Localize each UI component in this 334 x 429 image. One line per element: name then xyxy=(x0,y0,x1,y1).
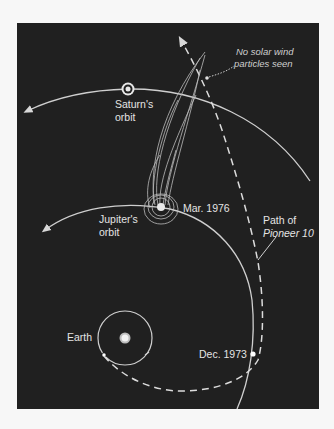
jupiter-dec-1973-dot xyxy=(250,351,255,356)
jupiter-orbit xyxy=(45,205,253,409)
saturn-orbit-label-2: orbit xyxy=(115,111,136,123)
mar-1976-label: Mar. 1976 xyxy=(183,202,230,214)
path-label: Path of xyxy=(263,214,296,226)
saturn-orbit xyxy=(27,89,310,181)
magnetotail xyxy=(144,52,205,224)
note-label: No solar wind xyxy=(236,46,294,57)
dec-1973-label: Dec. 1973 xyxy=(199,348,247,360)
note-label-2: particles seen xyxy=(233,58,293,69)
jupiter-orbit-label-2: orbit xyxy=(99,226,120,238)
path-label-2: Pioneer 10 xyxy=(263,227,314,239)
note-leader xyxy=(209,66,234,77)
saturn-orbit-label: Saturn's xyxy=(115,98,153,110)
earth-label: Earth xyxy=(67,331,92,343)
sun-icon xyxy=(120,333,131,344)
orbit-diagram: Saturn's orbit Jupiter's orbit Mar. 1976… xyxy=(0,0,334,429)
path-label-leader xyxy=(258,237,276,260)
saturn-icon xyxy=(122,83,135,96)
jupiter-icon xyxy=(157,203,165,211)
jupiter-orbit-label: Jupiter's xyxy=(99,213,138,225)
note-marker xyxy=(205,76,209,80)
